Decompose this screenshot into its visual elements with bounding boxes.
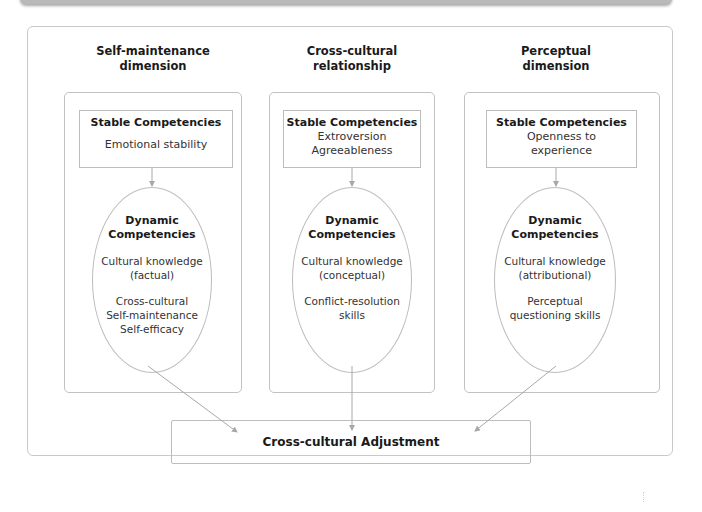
scan-artifact [643, 492, 647, 502]
stable-competencies-box: Stable Competencies Emotional stability [79, 110, 233, 168]
stable-competencies-box: Stable Competencies Extroversion Agreeab… [283, 110, 421, 168]
dynamic-item-group: Cultural knowledge (conceptual) [293, 254, 411, 282]
top-shadow-bar [20, 0, 672, 4]
dynamic-heading: Dynamic Competencies [495, 214, 615, 242]
stable-item: Openness to [487, 130, 636, 144]
heading-line: Dynamic [93, 214, 211, 228]
dynamic-item: Cross-cultural [93, 294, 211, 308]
stable-heading: Stable Competencies [80, 116, 232, 130]
title-line: Perceptual [461, 44, 651, 59]
dynamic-item: Self-maintenance [93, 308, 211, 322]
dynamic-item: Perceptual [495, 294, 615, 308]
dimension-title-self-maintenance: Self-maintenance dimension [58, 44, 248, 74]
dynamic-item: questioning skills [495, 308, 615, 322]
stable-heading: Stable Competencies [487, 116, 636, 130]
stable-competencies-box: Stable Competencies Openness to experien… [486, 110, 637, 168]
dynamic-item: Conflict-resolution [293, 294, 411, 308]
dynamic-item: (attributional) [495, 268, 615, 282]
dynamic-item: Cultural knowledge [495, 254, 615, 268]
stable-item: Emotional stability [80, 138, 232, 152]
dynamic-competencies-ellipse: Dynamic Competencies Cultural knowledge … [92, 187, 212, 373]
heading-line: Competencies [93, 228, 211, 242]
dynamic-heading: Dynamic Competencies [93, 214, 211, 242]
title-line: Cross-cultural [257, 44, 447, 59]
cross-cultural-adjustment-box: Cross-cultural Adjustment [171, 420, 531, 464]
dynamic-item-group: Perceptual questioning skills [495, 294, 615, 322]
dynamic-item: (conceptual) [293, 268, 411, 282]
heading-line: Competencies [293, 228, 411, 242]
title-line: dimension [461, 59, 651, 74]
stable-heading: Stable Competencies [284, 116, 420, 130]
dynamic-item-group: Cross-cultural Self-maintenance Self-eff… [93, 294, 211, 336]
heading-line: Dynamic [495, 214, 615, 228]
title-line: Self-maintenance [58, 44, 248, 59]
heading-line: Competencies [495, 228, 615, 242]
dynamic-competencies-ellipse: Dynamic Competencies Cultural knowledge … [292, 187, 412, 373]
dynamic-competencies-ellipse: Dynamic Competencies Cultural knowledge … [494, 187, 616, 373]
title-line: dimension [58, 59, 248, 74]
dynamic-item-group: Cultural knowledge (attributional) [495, 254, 615, 282]
dynamic-item: Self-efficacy [93, 322, 211, 336]
dynamic-item: (factual) [93, 268, 211, 282]
dimension-title-perceptual: Perceptual dimension [461, 44, 651, 74]
title-line: relationship [257, 59, 447, 74]
stable-item: Agreeableness [284, 144, 420, 158]
dynamic-item: skills [293, 308, 411, 322]
dynamic-heading: Dynamic Competencies [293, 214, 411, 242]
stable-item: experience [487, 144, 636, 158]
dimension-title-cross-cultural: Cross-cultural relationship [257, 44, 447, 74]
dynamic-item-group: Conflict-resolution skills [293, 294, 411, 322]
dynamic-item: Cultural knowledge [293, 254, 411, 268]
stable-item: Extroversion [284, 130, 420, 144]
heading-line: Dynamic [293, 214, 411, 228]
dynamic-item-group: Cultural knowledge (factual) [93, 254, 211, 282]
dynamic-item: Cultural knowledge [93, 254, 211, 268]
